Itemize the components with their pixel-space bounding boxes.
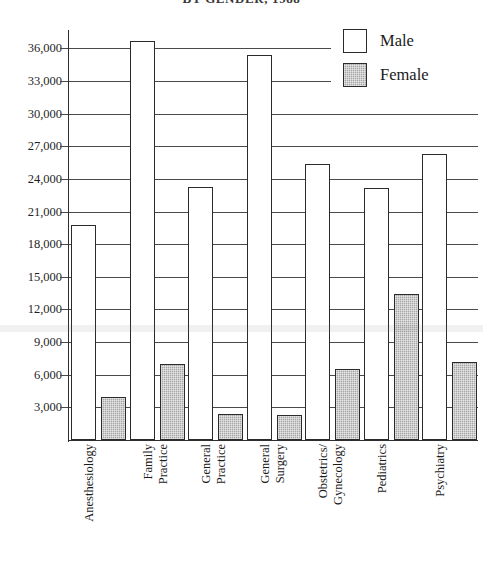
- legend-swatch-female-icon: [343, 63, 367, 87]
- legend-label-male: Male: [380, 31, 414, 51]
- bar-group: [71, 32, 130, 440]
- y-axis-tick-labels: 3,0006,0009,00012,00015,00018,00021,0002…: [0, 32, 62, 440]
- y-axis-tick-label: 9,000: [4, 336, 62, 348]
- y-axis-tick: [60, 212, 68, 213]
- y-axis-tick: [60, 146, 68, 147]
- bar-female[interactable]: [452, 362, 477, 440]
- y-axis-tick-label: 12,000: [4, 303, 62, 315]
- bar-male[interactable]: [364, 188, 389, 440]
- y-axis-tick: [60, 407, 68, 408]
- y-axis-tick-label: 33,000: [4, 75, 62, 87]
- y-axis-tick-label: 15,000: [4, 271, 62, 283]
- bar-male[interactable]: [422, 154, 447, 440]
- y-axis-tick: [60, 81, 68, 82]
- y-axis-tick: [60, 375, 68, 376]
- bar-female[interactable]: [101, 397, 126, 440]
- y-axis-tick: [60, 48, 68, 49]
- y-axis-tick-label: 21,000: [4, 206, 62, 218]
- bar-group: [130, 32, 189, 440]
- bar-male[interactable]: [247, 55, 272, 440]
- y-axis-tick-label: 18,000: [4, 238, 62, 250]
- y-axis-tick: [60, 179, 68, 180]
- legend-item-male[interactable]: Male: [337, 24, 477, 58]
- y-axis-tick: [60, 277, 68, 278]
- bar-female[interactable]: [218, 414, 243, 440]
- bar-female[interactable]: [277, 415, 302, 440]
- bar-female[interactable]: [335, 369, 360, 440]
- legend-item-female[interactable]: Female: [337, 58, 477, 92]
- y-axis-tick: [60, 114, 68, 115]
- y-axis-tick-label: 36,000: [4, 42, 62, 54]
- x-axis-baseline: [68, 440, 478, 441]
- y-axis-tick: [60, 309, 68, 310]
- legend-label-female: Female: [380, 65, 429, 85]
- bar-group: [188, 32, 247, 440]
- legend-swatch-male-icon: [343, 29, 367, 53]
- x-axis-category-label: Psychiatry: [433, 444, 451, 564]
- bar-male[interactable]: [188, 187, 213, 441]
- x-axis-category-labels: AnesthesiologyFamilyPracticeGeneralPract…: [68, 444, 478, 566]
- y-axis-tick-label: 3,000: [4, 401, 62, 413]
- y-axis-tick-label: 30,000: [4, 108, 62, 120]
- bar-female[interactable]: [160, 364, 185, 440]
- bar-group: [247, 32, 306, 440]
- x-axis-category-label: FamilyPractice: [141, 444, 159, 564]
- chart-legend: Male Female: [337, 24, 477, 92]
- y-axis-tick: [60, 244, 68, 245]
- chart-figure: BY GENDER, 1988 3,0006,0009,00012,00015,…: [0, 0, 483, 566]
- bar-male[interactable]: [305, 164, 330, 440]
- x-axis-category-label: Obstetrics/Gynecology: [316, 444, 334, 564]
- bar-male[interactable]: [71, 225, 96, 440]
- chart-title: BY GENDER, 1988: [0, 0, 483, 5]
- x-axis-category-label: GeneralSurgery: [258, 444, 276, 564]
- y-axis-tick-label: 6,000: [4, 369, 62, 381]
- y-axis-tick: [60, 342, 68, 343]
- y-axis-line: [68, 30, 69, 442]
- bar-male[interactable]: [130, 41, 155, 440]
- x-axis-category-label: Anesthesiology: [82, 444, 100, 564]
- bar-female[interactable]: [394, 294, 419, 440]
- y-axis-tick-label: 24,000: [4, 173, 62, 185]
- x-axis-category-label: Pediatrics: [375, 444, 393, 564]
- x-axis-category-label: GeneralPractice: [199, 444, 217, 564]
- y-axis-tick-label: 27,000: [4, 140, 62, 152]
